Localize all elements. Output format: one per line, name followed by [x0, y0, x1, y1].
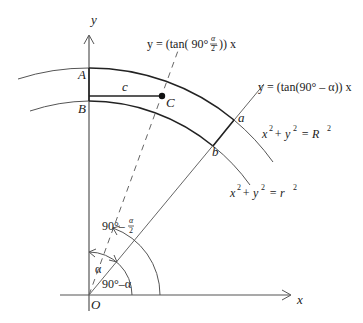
geometry-diagram: y x O A B C c a b y = (tan( 90° – α 2 ))…: [0, 0, 363, 323]
alpha-label: α: [95, 262, 102, 276]
segment-ab: [213, 120, 234, 146]
label-b: b: [212, 144, 219, 159]
label-C: C: [166, 95, 175, 110]
svg-text:2: 2: [211, 44, 215, 53]
svg-text:2: 2: [327, 124, 331, 133]
origin-label: O: [91, 297, 101, 312]
svg-text:2: 2: [261, 183, 265, 192]
outer-circle-equation: x 2 + y 2 = R 2: [261, 124, 331, 141]
svg-text:x: x: [261, 127, 268, 141]
svg-text:= R: = R: [301, 127, 320, 141]
solid-line-equation: y = (tan(90° – α)) x: [258, 80, 352, 94]
svg-text:2: 2: [293, 124, 297, 133]
svg-text:)) x: )) x: [219, 37, 236, 51]
svg-text:α: α: [129, 216, 134, 225]
dashed-line-equation: y = (tan( 90° – α 2 )) x: [147, 34, 236, 53]
point-C-dot: [159, 93, 165, 99]
label-A: A: [77, 67, 86, 82]
label-c: c: [122, 79, 128, 94]
svg-text:90°–: 90°–: [102, 219, 126, 233]
complement-angle-label: 90°–α: [102, 277, 132, 291]
svg-text:2: 2: [293, 183, 297, 192]
half-angle-label: 90°– α 2: [102, 216, 134, 235]
small-arc-arrow-top-icon: [89, 249, 96, 257]
x-axis-label: x: [296, 292, 303, 307]
svg-text:y = (tan( 90° –: y = (tan( 90° –: [147, 37, 218, 51]
label-a: a: [238, 110, 245, 125]
y-axis-label: y: [89, 12, 97, 27]
svg-text:x: x: [229, 186, 236, 200]
svg-text:2: 2: [129, 226, 133, 235]
svg-text:2: 2: [269, 124, 273, 133]
dashed-bisector: [89, 48, 179, 295]
svg-text:= r: = r: [269, 186, 285, 200]
svg-text:+ y: + y: [274, 127, 291, 141]
inner-arc-thin-right: [213, 146, 250, 185]
label-B: B: [78, 101, 86, 116]
inner-circle-equation: x 2 + y 2 = r 2: [229, 183, 297, 200]
svg-text:+ y: + y: [242, 186, 259, 200]
inner-arc-bold: [89, 101, 213, 146]
svg-text:2: 2: [237, 183, 241, 192]
